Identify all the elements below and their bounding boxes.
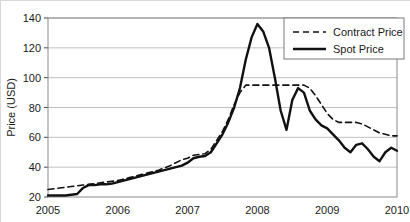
chart-legend: Contract PriceSpot Price (284, 18, 404, 59)
y-tick-label: 120 (23, 42, 41, 54)
x-tick-label: 2006 (106, 204, 130, 216)
y-tick-label: 80 (29, 102, 41, 114)
x-tick-label: 2007 (175, 204, 199, 216)
x-tick-label: 2005 (36, 204, 60, 216)
y-tick-label: 100 (23, 72, 41, 84)
y-tick-label: 20 (29, 191, 41, 203)
legend-label: Contract Price (333, 26, 403, 38)
chart-figure: 20406080100120140 2005200620072008200920… (0, 0, 410, 222)
line-chart: 20406080100120140 2005200620072008200920… (1, 1, 410, 222)
y-axis-label: Price (USD) (5, 78, 17, 137)
y-tick-label: 40 (29, 161, 41, 173)
x-tick-label: 2008 (245, 204, 269, 216)
x-tick-label: 2010 (385, 204, 409, 216)
y-tick-label: 140 (23, 12, 41, 24)
y-tick-label: 60 (29, 131, 41, 143)
x-tick-label: 2009 (315, 204, 339, 216)
legend-label: Spot Price (333, 43, 384, 55)
